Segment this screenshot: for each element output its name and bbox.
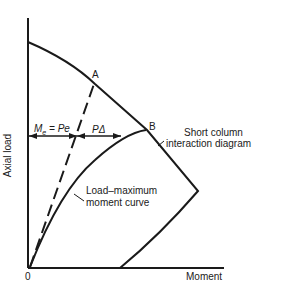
- diagram-canvas: Axial load 0 Moment A B Me = Pe PΔ Short…: [0, 0, 289, 288]
- interaction-diagram-label-1: Short column: [184, 127, 243, 138]
- interaction-diagram-curve: [28, 42, 198, 268]
- point-a-label: A: [92, 69, 99, 80]
- origin-label: 0: [25, 271, 31, 282]
- me-pe-label: Me = Pe: [34, 123, 70, 138]
- p-delta-label: PΔ: [92, 124, 105, 135]
- load-max-label-2: moment curve: [86, 197, 149, 208]
- load-max-label-1: Load–maximum: [86, 185, 157, 196]
- x-axis-label: Moment: [186, 271, 222, 282]
- point-b-label: B: [149, 121, 156, 132]
- loadmax-leader: [74, 194, 84, 201]
- y-axis-label: Axial load: [2, 134, 13, 177]
- eccentricity-line-dashed: [30, 84, 94, 267]
- interaction-diagram-label-2: interaction diagram: [166, 138, 251, 149]
